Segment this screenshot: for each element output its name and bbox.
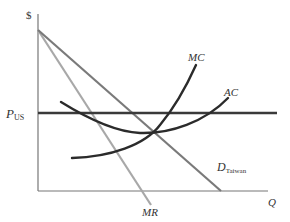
- price-us-label-sub: US: [14, 113, 24, 122]
- y-axis-label: $: [26, 10, 32, 21]
- demand-label-sub: Taiwan: [226, 167, 247, 175]
- marginal-cost-label: MC: [188, 52, 205, 63]
- marginal-revenue-label: MR: [142, 207, 158, 218]
- diagram-canvas: [0, 0, 290, 222]
- price-us-label-main: P: [6, 106, 14, 121]
- x-axis-label: Q: [268, 197, 276, 208]
- price-us-label: PUS: [6, 107, 24, 122]
- economics-diagram: $ PUS MC AC DTaiwan MR Q: [0, 0, 290, 222]
- marginal-revenue-curve: [38, 30, 151, 205]
- demand-label-main: D: [217, 160, 226, 174]
- average-cost-label: AC: [224, 87, 238, 98]
- demand-label: DTaiwan: [217, 161, 246, 175]
